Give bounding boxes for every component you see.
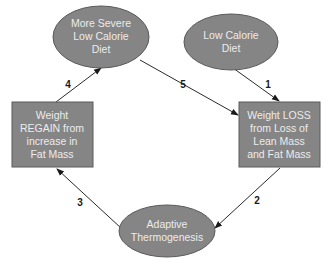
edge-1: [233, 68, 279, 101]
node-text-line: from Loss of: [250, 122, 308, 134]
node-more-severe-diet: More Severe Low Calorie Diet: [53, 6, 149, 68]
node-text-line: More Severe: [71, 17, 131, 29]
node-text-line: Adaptive: [147, 218, 188, 230]
node-text-line: REGAIN from: [20, 122, 84, 134]
edge-label-1: 1: [265, 79, 271, 90]
node-adaptive-thermogenesis: Adaptive Thermogenesis: [119, 205, 215, 257]
edge-label-3: 3: [77, 197, 83, 208]
weight-cycle-diagram: 1 2 3 4 5 More Severe Low Calorie Diet L…: [0, 0, 330, 263]
edge-4: [56, 68, 101, 102]
edge-label-5: 5: [180, 79, 186, 90]
node-text-line: Lean Mass: [253, 135, 304, 147]
node-weight-loss: Weight LOSS from Loss of Lean Mass and F…: [239, 102, 320, 167]
node-weight-regain: Weight REGAIN from increase in Fat Mass: [12, 102, 93, 167]
node-text-line: increase in: [27, 135, 78, 147]
node-text-line: Low Calorie: [203, 29, 259, 41]
edge-label-2: 2: [254, 195, 260, 206]
node-text-line: Diet: [222, 42, 241, 54]
node-text-line: Weight: [36, 109, 69, 121]
node-text-line: Low Calorie: [73, 30, 129, 42]
edge-3: [57, 169, 121, 228]
edge-label-4: 4: [65, 79, 71, 90]
node-text-line: Diet: [92, 43, 111, 55]
node-text-line: Thermogenesis: [131, 231, 203, 243]
node-text-line: and Fat Mass: [247, 148, 311, 160]
edge-2: [215, 168, 280, 228]
node-low-calorie-diet: Low Calorie Diet: [184, 14, 278, 70]
node-text-line: Weight LOSS: [247, 109, 310, 121]
node-text-line: Fat Mass: [30, 148, 73, 160]
